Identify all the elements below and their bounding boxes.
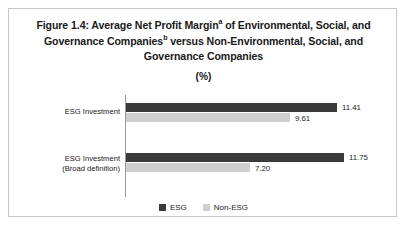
figure-title-line1-post: of Environmental, Social,: [222, 19, 349, 31]
figure-title-line1-pre: Figure 1.4: Average Net Profit Margin: [36, 19, 218, 31]
category-label-line1: ESG Investment: [65, 107, 120, 116]
chart-legend: ESG Non-ESG: [9, 203, 398, 212]
legend-label-non-esg: Non-ESG: [214, 203, 248, 212]
figure-units-label: (%): [21, 71, 386, 82]
figure-frame: Figure 1.4: Average Net Profit Margina o…: [8, 8, 397, 217]
bar-value-esg-investment-esg: 11.41: [342, 103, 361, 112]
esg-legend-swatch-icon: [159, 204, 166, 211]
legend-label-esg: ESG: [170, 203, 187, 212]
bar-value-esg-investment-non-esg: 9.61: [295, 114, 310, 123]
bar-esg-investment-broad-non-esg[interactable]: [126, 163, 250, 172]
plot-area: ESG Investment 11.41 9.61 ESG Investment…: [9, 91, 398, 218]
category-label-esg-investment: ESG Investment: [0, 107, 120, 117]
bar-esg-investment-broad-esg[interactable]: [126, 153, 344, 162]
bar-value-esg-investment-broad-esg: 11.75: [349, 153, 368, 162]
legend-entry-esg[interactable]: ESG: [159, 203, 187, 212]
figure-title: Figure 1.4: Average Net Profit Margina o…: [21, 18, 386, 65]
category-label-line1: ESG Investment: [65, 154, 120, 163]
category-label-line2: (Broad definition): [0, 164, 120, 174]
non-esg-legend-swatch-icon: [203, 204, 210, 211]
legend-entry-non-esg[interactable]: Non-ESG: [203, 203, 248, 212]
bar-esg-investment-esg[interactable]: [126, 103, 337, 112]
figure-title-line2-post: versus Non-Environmental, Social,: [167, 35, 341, 47]
bar-value-esg-investment-broad-non-esg: 7.20: [255, 164, 270, 173]
category-label-esg-investment-broad: ESG Investment (Broad definition): [0, 154, 120, 173]
bar-esg-investment-non-esg[interactable]: [126, 113, 290, 122]
